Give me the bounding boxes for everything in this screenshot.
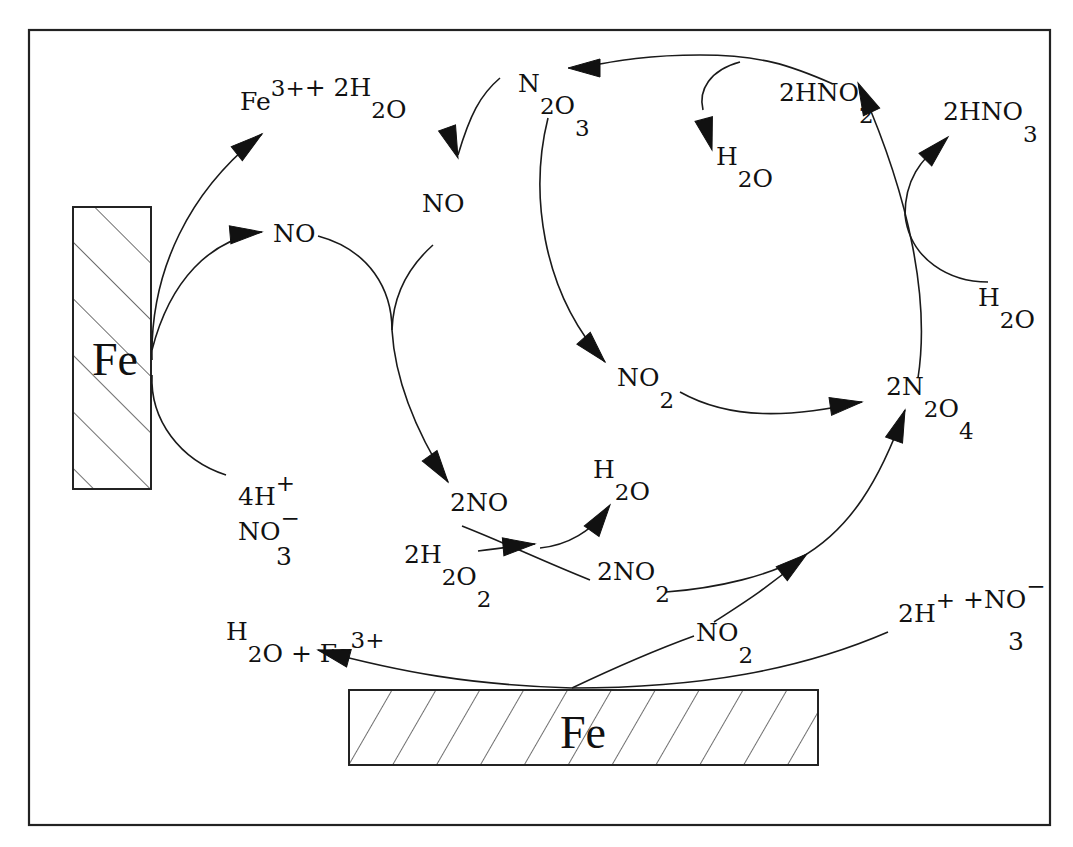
species-h2o-top: H2O — [716, 142, 773, 193]
arrowhead-icon — [422, 451, 455, 488]
species-labels: Fe3++ 2H2ONO4H+NO−3N2O3NOH2O2HNO22HNO3H2… — [226, 69, 1046, 668]
reaction-diagram: Fe Fe Fe3++ 2H2ONO4H+NO−3N2O3NOH2O2HNO22… — [0, 0, 1073, 847]
arrow-fe-to-fe3 — [152, 127, 268, 360]
arrowhead-icon — [577, 332, 612, 368]
species-2h-no3-bottom: 2H+ +NO− — [898, 573, 1046, 628]
arrow-h-no3-to-fe — [152, 375, 226, 475]
arrowhead-icon — [829, 393, 863, 415]
reaction-arrows — [152, 55, 988, 688]
species-2h-no3-bottom-sub: 3 — [1008, 627, 1024, 656]
electrode-left-label: Fe — [92, 334, 138, 385]
arrow-fe-to-no — [152, 223, 263, 350]
arrow-h2o-to-2hno3 — [905, 131, 988, 282]
species-h2o-small: H2O — [593, 455, 650, 506]
arrowhead-icon — [502, 535, 535, 556]
arrow-surface-to-no2 — [572, 636, 694, 688]
species-no2-bottom: NO2 — [696, 618, 753, 668]
species-no-left: NO — [273, 219, 315, 248]
arrow-n2o3-to-no — [439, 78, 500, 161]
arrow-junction-to-h2o — [540, 500, 617, 548]
species-2hno3: 2HNO3 — [943, 97, 1038, 147]
species-no2-middle: NO2 — [617, 363, 674, 413]
species-2no2: 2NO2 — [597, 557, 670, 607]
species-no-middle: NO — [422, 189, 464, 218]
species-n2o3: N2O3 — [518, 69, 590, 141]
arrow-2no-to-2no2 — [462, 526, 590, 580]
species-h2o-right: H2O — [978, 283, 1035, 334]
electrode-bottom: Fe — [349, 690, 818, 765]
arrow-no-to-2no — [318, 236, 455, 487]
arrow-no2-to-2n2o4 — [680, 392, 863, 415]
arrowhead-icon — [584, 500, 617, 537]
arrowhead-icon — [229, 223, 262, 244]
arrowhead-icon — [886, 407, 914, 443]
species-fe3-2h2o-top: Fe3++ 2H2O — [240, 73, 406, 124]
species-2no: 2NO — [450, 488, 508, 517]
species-no3-minus-left-sub: 3 — [276, 542, 292, 571]
species-no3-minus-left: NO− — [238, 505, 300, 546]
arrow-no-joins-loop — [392, 245, 433, 330]
arrow-n2o3-to-no2 — [540, 118, 612, 368]
arrow-no2-bottom-to-arrow — [714, 547, 813, 622]
electrode-bottom-label: Fe — [560, 707, 606, 758]
arrowhead-icon — [568, 59, 600, 77]
electrode-left: Fe — [73, 207, 151, 489]
arrow-branch-to-h2o — [695, 62, 740, 152]
